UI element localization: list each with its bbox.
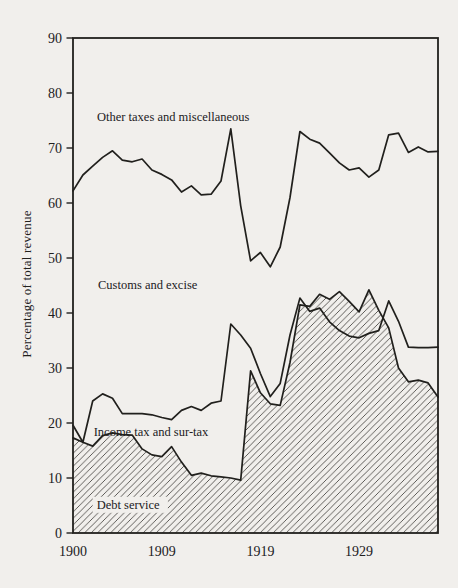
y-tick-label: 20 (48, 416, 62, 431)
y-tick-label: 0 (55, 526, 62, 541)
y-tick-label: 50 (48, 251, 62, 266)
band-label: Customs and excise (98, 278, 198, 292)
y-tick-label: 10 (48, 471, 62, 486)
x-tick-label: 1900 (59, 544, 87, 559)
scanned-chart-page: 9080706050403020100 1900190919191929 Oth… (0, 0, 458, 588)
y-tick-label: 70 (48, 141, 62, 156)
band-label: Debt service (97, 498, 160, 512)
y-tick-label: 90 (48, 31, 62, 46)
y-axis-title: Percentage of total revenue (19, 210, 34, 357)
band-label: Other taxes and miscellaneous (97, 110, 250, 124)
y-tick-label: 40 (48, 306, 62, 321)
y-tick-label: 30 (48, 361, 62, 376)
x-tick-label: 1909 (148, 544, 176, 559)
y-tick-label: 60 (48, 196, 62, 211)
y-tick-label: 80 (48, 86, 62, 101)
revenue-share-chart: 9080706050403020100 1900190919191929 Oth… (0, 0, 458, 588)
band-label: Income tax and sur-tax (94, 425, 209, 439)
x-tick-label: 1929 (345, 544, 373, 559)
x-tick-label: 1919 (246, 544, 274, 559)
